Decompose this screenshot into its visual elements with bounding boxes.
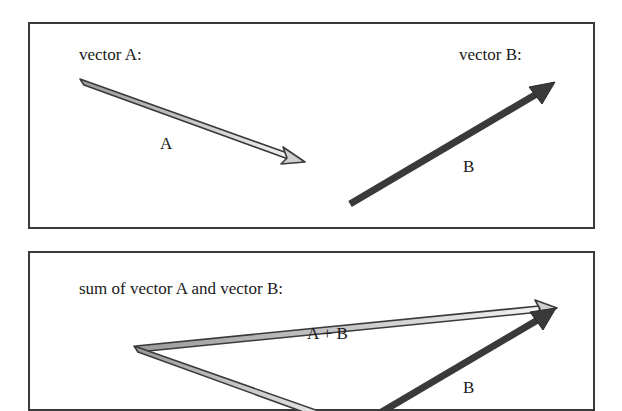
- vector-b-arrow: [350, 82, 555, 204]
- vector-a-tag: A: [160, 135, 172, 152]
- vector-a-arrow: [80, 79, 305, 164]
- sum-ab-tag: A + B: [307, 325, 348, 342]
- vector-b-tag: B: [463, 158, 474, 175]
- sum-b-tag: B: [463, 379, 474, 396]
- vector-b-title: vector B:: [459, 46, 522, 63]
- sum-title: sum of vector A and vector B:: [79, 280, 283, 297]
- vector-a-title: vector A:: [79, 46, 142, 63]
